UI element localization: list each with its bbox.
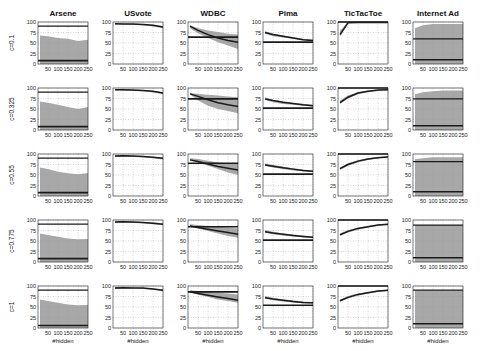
x-tick-label: 250: [308, 132, 317, 138]
y-tick-label: 0: [258, 61, 261, 67]
x-tick-label: 100: [428, 132, 437, 138]
y-tick-label: 75: [180, 228, 186, 234]
x-tick-label: 200: [373, 132, 382, 138]
y-tick-label: 100: [27, 19, 36, 25]
y-tick-label: 0: [333, 193, 336, 199]
y-tick-label: 25: [105, 51, 111, 57]
x-tick-label: 200: [223, 198, 232, 204]
x-tick-label: 150: [138, 198, 147, 204]
x-tick-label: 200: [223, 132, 232, 138]
y-tick-label: 100: [102, 85, 111, 91]
y-tick-label: 50: [330, 172, 336, 178]
y-tick-label: 75: [255, 96, 261, 102]
x-tick-label: 50: [45, 66, 51, 72]
figure-grid: ArseneUSvoteWDBCPimaTicTacToeInternet Ad…: [0, 0, 488, 351]
y-tick-label: 50: [405, 238, 411, 244]
x-tick-label: 200: [223, 330, 232, 336]
x-tick-label: 50: [420, 198, 426, 204]
row-label: c=0.55: [8, 165, 15, 185]
x-tick-label: 250: [383, 66, 392, 72]
x-tick-label: 100: [203, 264, 212, 270]
y-tick-label: 25: [330, 117, 336, 123]
x-tick-label: 50: [345, 330, 351, 336]
subplot-wdbc-row-1: 025507510050100150200250: [177, 19, 243, 72]
x-tick-label: 150: [288, 66, 297, 72]
x-tick-label: 150: [213, 264, 222, 270]
y-tick-label: 25: [30, 183, 36, 189]
x-tick-label: 250: [458, 66, 467, 72]
subplot-wdbc-row-4: 025507510050100150200250: [177, 217, 243, 270]
y-tick-label: 50: [255, 172, 261, 178]
x-tick-label: 100: [53, 66, 62, 72]
row-label: c=0.1: [8, 35, 15, 51]
mean-line: [340, 22, 388, 34]
x-tick-label: 100: [353, 330, 362, 336]
x-tick-label: 250: [83, 66, 92, 72]
y-tick-label: 50: [180, 40, 186, 46]
subplot-tictactoe-row-2: 025507510050100150200250: [327, 85, 393, 138]
y-tick-label: 25: [405, 51, 411, 57]
variance-band: [40, 167, 88, 196]
y-tick-label: 75: [330, 294, 336, 300]
x-tick-label: 100: [203, 198, 212, 204]
y-tick-label: 75: [30, 96, 36, 102]
y-tick-label: 100: [27, 85, 36, 91]
x-tick-label: 150: [288, 264, 297, 270]
x-tick-label: 250: [458, 264, 467, 270]
variance-band: [40, 35, 88, 64]
x-tick-label: 50: [120, 330, 126, 336]
y-tick-label: 50: [330, 304, 336, 310]
subplot-arsene-row-2: 025507510050100150200250: [27, 85, 93, 138]
x-tick-label: 200: [448, 330, 457, 336]
y-tick-label: 25: [180, 183, 186, 189]
x-tick-label: 150: [213, 198, 222, 204]
x-tick-label: 200: [448, 66, 457, 72]
x-tick-label: 100: [428, 330, 437, 336]
y-tick-label: 75: [180, 30, 186, 36]
y-tick-label: 50: [30, 304, 36, 310]
x-tick-label: 100: [53, 198, 62, 204]
x-tick-label: 50: [120, 198, 126, 204]
x-tick-label: 150: [438, 66, 447, 72]
subplot-usvote-row-4: 025507510050100150200250: [102, 217, 168, 270]
x-tick-label: 150: [63, 330, 72, 336]
x-tick-label: 50: [270, 264, 276, 270]
x-tick-label: 250: [83, 330, 92, 336]
x-tick-label: 100: [278, 66, 287, 72]
x-tick-label: 100: [278, 198, 287, 204]
y-tick-label: 0: [333, 325, 336, 331]
y-tick-label: 75: [405, 96, 411, 102]
x-tick-label: 150: [138, 330, 147, 336]
subplot-usvote-row-5: 025507510050100150200250#hidden: [102, 283, 168, 344]
row-label: c=0.325: [8, 97, 15, 121]
x-tick-label: 200: [73, 198, 82, 204]
y-tick-label: 50: [330, 106, 336, 112]
x-tick-label: 50: [270, 198, 276, 204]
subplot-arsene-row-1: 025507510050100150200250: [27, 19, 93, 72]
x-tick-label: 250: [308, 198, 317, 204]
x-tick-label: 100: [428, 66, 437, 72]
x-tick-label: 50: [120, 66, 126, 72]
x-tick-label: 250: [308, 66, 317, 72]
y-tick-label: 100: [27, 217, 36, 223]
y-tick-label: 75: [105, 30, 111, 36]
y-tick-label: 75: [405, 228, 411, 234]
subplot-usvote-row-2: 025507510050100150200250: [102, 85, 168, 138]
y-tick-label: 25: [180, 117, 186, 123]
y-tick-label: 100: [252, 19, 261, 25]
x-tick-label: 200: [148, 66, 157, 72]
x-tick-label: 50: [45, 198, 51, 204]
subplot-tictactoe-row-1: 025507510050100150200250: [327, 19, 393, 72]
x-tick-label: 50: [345, 198, 351, 204]
y-tick-label: 25: [30, 51, 36, 57]
y-tick-label: 0: [108, 325, 111, 331]
y-tick-label: 100: [27, 151, 36, 157]
y-tick-label: 25: [405, 249, 411, 255]
x-tick-label: 250: [308, 330, 317, 336]
column-title: Internet Ad: [417, 9, 459, 18]
variance-band: [40, 101, 88, 130]
y-tick-label: 25: [330, 51, 336, 57]
y-tick-label: 100: [177, 217, 186, 223]
y-tick-label: 100: [102, 19, 111, 25]
x-tick-label: 200: [448, 264, 457, 270]
